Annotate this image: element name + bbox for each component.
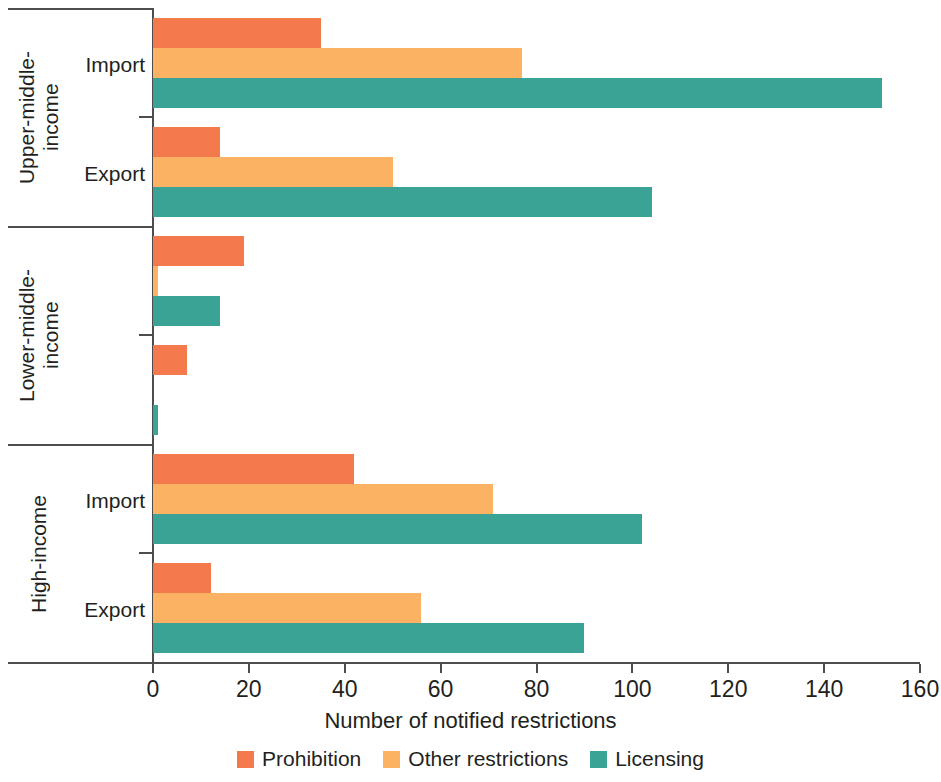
group-label-text: Upper-middle- income — [15, 51, 63, 184]
bar-other-restrictions — [153, 157, 393, 187]
bar-other-restrictions — [153, 48, 522, 78]
x-axis-tick — [727, 664, 729, 673]
bar-prohibition — [153, 127, 220, 157]
x-axis-tick — [440, 664, 442, 673]
x-axis-tick-label: 20 — [236, 676, 262, 702]
x-axis-tick — [919, 664, 921, 673]
x-axis-title: Number of notified restrictions — [0, 708, 941, 734]
bar-other-restrictions — [153, 266, 158, 296]
group-lower-middle-income: Lower-middle- income Import Export — [8, 226, 153, 444]
legend-label: Prohibition — [262, 748, 361, 770]
legend-swatch-icon — [590, 751, 607, 768]
bar-prohibition — [153, 454, 354, 484]
bar-prohibition — [153, 345, 187, 375]
legend-label: Other restrictions — [408, 748, 568, 770]
subcategory-label-export: Export — [84, 163, 145, 184]
group-label-text: High-income — [27, 495, 51, 613]
bar-other-restrictions — [153, 593, 421, 623]
minor-tick — [139, 334, 153, 336]
legend-item-other-restrictions: Other restrictions — [383, 748, 568, 770]
x-axis-tick-label: 160 — [901, 676, 939, 702]
x-axis-tick — [631, 664, 633, 673]
grouped-bar-chart: Upper-middle- income Import Export Lower… — [0, 0, 941, 782]
bar-licensing — [153, 405, 158, 435]
bar-other-restrictions — [153, 484, 493, 514]
bar-licensing — [153, 78, 882, 108]
x-axis-tick — [152, 664, 154, 673]
minor-tick — [139, 116, 153, 118]
bar-licensing — [153, 623, 584, 653]
group-label-lower-middle-income: Lower-middle- income — [10, 228, 68, 444]
group-upper-middle-income: Upper-middle- income Import Export — [8, 8, 153, 226]
x-axis-tick-label: 140 — [805, 676, 843, 702]
group-label-text: Lower-middle- income — [15, 269, 63, 402]
chart-legend: Prohibition Other restrictions Licensing — [0, 748, 941, 770]
legend-swatch-icon — [237, 751, 254, 768]
bar-prohibition — [153, 18, 321, 48]
x-axis-tick-label: 60 — [428, 676, 454, 702]
plot-area — [153, 8, 920, 663]
category-panel: Upper-middle- income Import Export Lower… — [8, 8, 153, 663]
bar-prohibition — [153, 236, 244, 266]
subcategory-label-import: Import — [85, 54, 145, 75]
group-label-high-income: High-income — [10, 446, 68, 662]
legend-swatch-icon — [383, 751, 400, 768]
bar-licensing — [153, 514, 642, 544]
x-axis-tick-label: 100 — [613, 676, 651, 702]
x-axis-tick — [823, 664, 825, 673]
bar-licensing — [153, 187, 652, 217]
x-axis-tick-label: 80 — [524, 676, 550, 702]
bar-prohibition — [153, 563, 211, 593]
group-label-upper-middle-income: Upper-middle- income — [10, 10, 68, 226]
minor-tick — [139, 552, 153, 554]
legend-label: Licensing — [615, 748, 704, 770]
x-axis-tick-label: 0 — [147, 676, 160, 702]
legend-item-prohibition: Prohibition — [237, 748, 361, 770]
x-axis-tick — [536, 664, 538, 673]
legend-item-licensing: Licensing — [590, 748, 704, 770]
x-axis-tick — [344, 664, 346, 673]
x-axis-tick — [248, 664, 250, 673]
x-axis-tick-label: 120 — [709, 676, 747, 702]
x-axis-tick-label: 40 — [332, 676, 358, 702]
bar-licensing — [153, 296, 220, 326]
group-high-income: High-income Import Export — [8, 444, 153, 662]
